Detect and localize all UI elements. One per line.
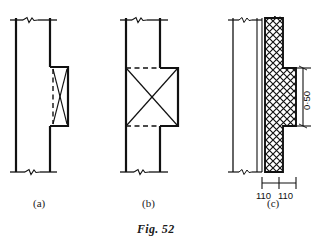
panel-b-pier-cross xyxy=(127,69,177,125)
panel-c-horizontal-dimension xyxy=(262,177,296,189)
panel-a-pier-cross xyxy=(53,69,67,124)
figure-caption: Fig. 52 xyxy=(137,222,174,237)
panel-a-label: (a) xyxy=(33,197,45,209)
figure-page: 110 110 0·50 (a) (b) (c) Fig. 52 xyxy=(0,0,320,244)
panel-b-drawing xyxy=(120,18,178,175)
panel-c-drawing xyxy=(228,16,311,189)
dimension-110-right: 110 xyxy=(278,190,293,201)
panel-c-wall-hatched-body xyxy=(265,18,296,172)
dimension-0-50-vertical: 0·50 xyxy=(301,91,312,110)
panel-b-pier-outline xyxy=(160,68,178,126)
panel-a-drawing xyxy=(10,18,68,175)
panel-c-label: (c) xyxy=(267,197,279,209)
panel-b-label: (b) xyxy=(142,197,155,209)
